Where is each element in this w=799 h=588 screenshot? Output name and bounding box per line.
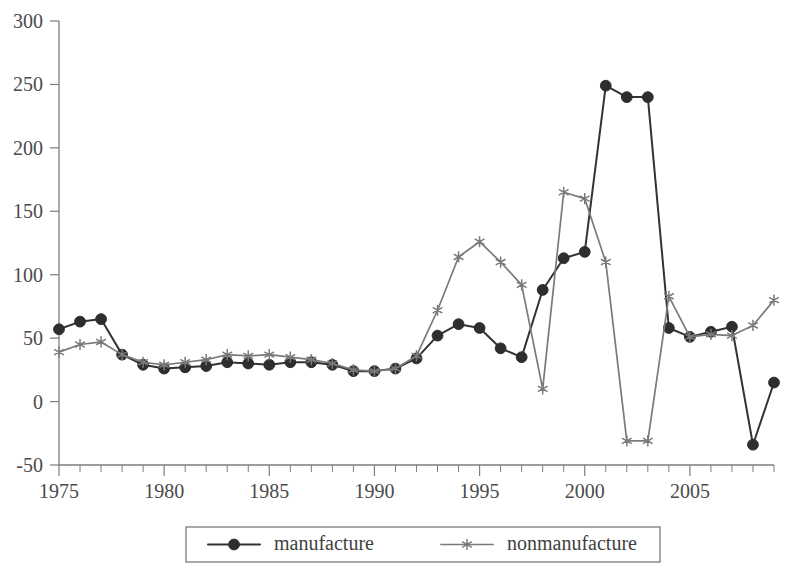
series-nonmanufacture (54, 187, 779, 447)
series-manufacture (54, 80, 780, 450)
data-point-marker (96, 314, 107, 325)
data-point-marker (580, 193, 590, 204)
data-point-marker (748, 439, 759, 450)
data-point-marker (454, 251, 464, 262)
y-tick-label: 100 (13, 264, 43, 286)
data-point-marker (453, 319, 464, 330)
data-point-marker (516, 352, 527, 363)
data-point-marker (601, 256, 611, 267)
x-tick-label: 1975 (39, 480, 79, 502)
data-point-marker (537, 285, 548, 296)
legend-label: manufacture (274, 532, 374, 554)
x-axis-ticks: 1975198019851990199520002005 (39, 465, 774, 502)
data-point-marker (54, 346, 64, 357)
data-point-marker (432, 330, 443, 341)
data-point-marker (264, 359, 275, 370)
legend-marker-icon (229, 539, 240, 550)
y-tick-label: 50 (23, 327, 43, 349)
y-tick-label: -50 (16, 454, 43, 476)
data-point-marker (621, 92, 632, 103)
chart-legend: manufacturenonmanufacture (186, 527, 660, 562)
data-point-marker (54, 324, 65, 335)
line-chart-figure: 300250200150100500-50 197519801985199019… (0, 0, 799, 588)
data-point-marker (75, 316, 86, 327)
axes-group (59, 21, 774, 465)
data-point-marker (433, 305, 443, 316)
data-point-marker (474, 323, 485, 334)
x-tick-label: 1990 (354, 480, 394, 502)
data-point-marker (579, 246, 590, 257)
x-tick-label: 1980 (144, 480, 184, 502)
x-tick-label: 2000 (565, 480, 605, 502)
data-point-marker (495, 343, 506, 354)
x-tick-label: 1985 (249, 480, 289, 502)
series-line-manufacture (59, 86, 774, 445)
y-axis-ticks: 300250200150100500-50 (13, 10, 59, 476)
series-line-nonmanufacture (59, 192, 774, 441)
legend-label: nonmanufacture (507, 532, 637, 554)
data-point-marker (642, 92, 653, 103)
data-point-marker (558, 253, 569, 264)
x-tick-label: 1995 (460, 480, 500, 502)
data-series-layer (54, 80, 780, 450)
data-point-marker (600, 80, 611, 91)
x-tick-label: 2005 (670, 480, 710, 502)
chart-canvas: 300250200150100500-50 197519801985199019… (0, 0, 799, 588)
data-point-marker (559, 187, 569, 198)
y-tick-label: 0 (33, 391, 43, 413)
y-tick-label: 250 (13, 73, 43, 95)
y-tick-label: 200 (13, 137, 43, 159)
data-point-marker (538, 383, 548, 394)
y-tick-label: 300 (13, 10, 43, 32)
data-point-marker (769, 377, 780, 388)
y-tick-label: 150 (13, 200, 43, 222)
